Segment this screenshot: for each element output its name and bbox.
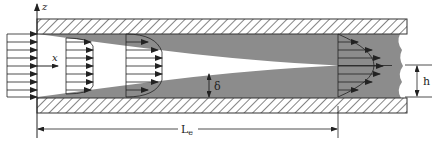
bottom-wall — [37, 98, 407, 113]
top-wall — [37, 19, 407, 34]
z-axis-label: z — [41, 1, 48, 12]
entrance-length-label: Le — [181, 123, 193, 137]
inlet-uniform-profile — [7, 34, 37, 97]
h-label: h — [423, 75, 430, 88]
x-axis-label: x — [52, 52, 58, 63]
channel-entrance-diagram: z x — [0, 0, 436, 147]
delta-label: δ — [214, 80, 221, 93]
